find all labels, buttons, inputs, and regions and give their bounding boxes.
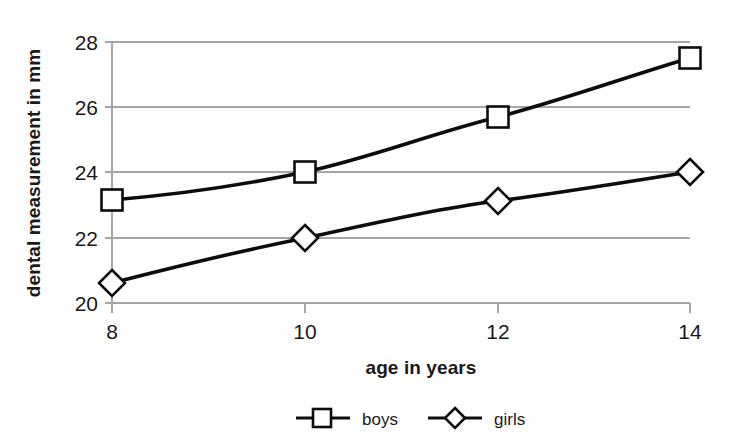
data-point-boys-10	[295, 162, 316, 183]
y-tick-label-26: 26	[75, 96, 98, 119]
chart-canvas: 28 26 24 22 20 8 10 12 14 age in years d…	[0, 0, 735, 448]
data-point-boys-12	[488, 107, 509, 128]
data-point-boys-14	[680, 48, 701, 69]
legend-marker-square-icon	[313, 409, 331, 427]
data-point-boys-8	[102, 190, 123, 211]
legend-label-boys: boys	[362, 410, 398, 429]
y-tick-label-24: 24	[75, 161, 99, 184]
x-axis-title: age in years	[365, 357, 476, 378]
y-tick-label-28: 28	[75, 31, 98, 54]
legend-label-girls: girls	[494, 410, 525, 429]
y-tick-label-22: 22	[75, 227, 98, 250]
x-tick-label-14: 14	[678, 320, 702, 343]
y-tick-label-20: 20	[75, 292, 98, 315]
x-tick-label-12: 12	[486, 320, 509, 343]
x-tick-label-8: 8	[106, 320, 118, 343]
y-axis-title: dental measurement in mm	[23, 49, 44, 297]
x-tick-label-10: 10	[293, 320, 316, 343]
line-chart: 28 26 24 22 20 8 10 12 14 age in years d…	[0, 0, 735, 448]
